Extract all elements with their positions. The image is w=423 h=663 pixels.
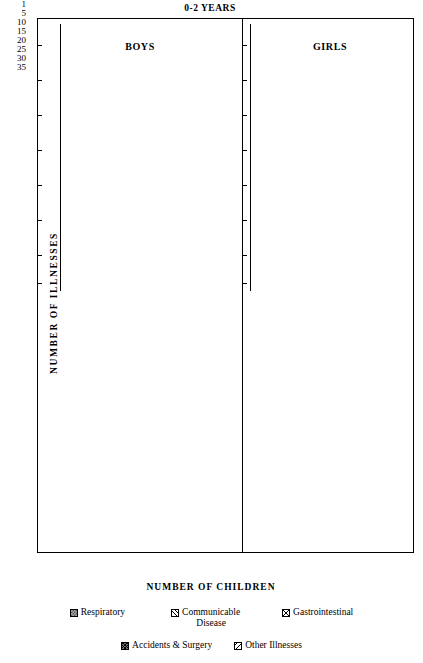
y-tick-respiratory-35-boys bbox=[38, 45, 42, 46]
chart-title: 0-2 YEARS bbox=[120, 3, 300, 13]
communicable-swatch-icon bbox=[171, 609, 179, 617]
chart-frame-top bbox=[37, 18, 414, 19]
chart-frame-left bbox=[37, 18, 38, 552]
y-tick-respiratory-10-girls bbox=[243, 220, 247, 221]
y-tick-respiratory-1-boys bbox=[38, 283, 42, 284]
other-swatch-icon bbox=[234, 642, 242, 650]
chart-frame-bottom bbox=[37, 552, 414, 553]
panel-axis-respiratory-girls bbox=[250, 24, 251, 291]
panel-header-boys: BOYS bbox=[100, 41, 180, 52]
legend-label: Respiratory bbox=[81, 607, 125, 618]
legend-item-respiratory: Respiratory bbox=[70, 607, 125, 618]
accidents-swatch-icon bbox=[121, 642, 129, 650]
legend-item-accidents: Accidents & Surgery bbox=[121, 640, 212, 651]
y-tick-respiratory-5-boys bbox=[38, 255, 42, 256]
y-tick-respiratory-5-girls bbox=[243, 255, 247, 256]
legend-label: CommunicableDisease bbox=[182, 607, 240, 629]
legend-item-communicable: CommunicableDisease bbox=[171, 607, 240, 629]
y-tick-respiratory-1-girls bbox=[243, 283, 247, 284]
y-tick-respiratory-30-girls bbox=[243, 80, 247, 81]
gastrointestinal-swatch-icon bbox=[282, 609, 290, 617]
panel-header-girls: GIRLS bbox=[290, 41, 370, 52]
legend-label: Accidents & Surgery bbox=[132, 640, 212, 651]
y-tick-respiratory-10-boys bbox=[38, 220, 42, 221]
legend-item-other: Other Illnesses bbox=[234, 640, 302, 651]
chart-frame-right bbox=[413, 18, 414, 552]
y-axis-title: NUMBER OF ILLNESSES bbox=[49, 203, 59, 403]
y-tick-respiratory-25-girls bbox=[243, 115, 247, 116]
y-tick-respiratory-35-girls bbox=[243, 45, 247, 46]
chart-root: 0-2 YEARS NUMBER OF ILLNESSES NUMBER OF … bbox=[0, 0, 423, 663]
y-tick-respiratory-30-boys bbox=[38, 80, 42, 81]
legend-row-2: Accidents & Surgery Other Illnesses bbox=[0, 640, 423, 651]
y-tick-respiratory-25-boys bbox=[38, 115, 42, 116]
panel-divider bbox=[242, 18, 243, 552]
respiratory-swatch-icon bbox=[70, 609, 78, 617]
y-tick-label-respiratory-35: 35 bbox=[0, 63, 26, 72]
y-tick-respiratory-15-boys bbox=[38, 185, 42, 186]
legend-row-1: Respiratory CommunicableDisease Gastroin… bbox=[0, 607, 423, 629]
y-tick-respiratory-15-girls bbox=[243, 185, 247, 186]
panel-axis-respiratory-boys bbox=[60, 24, 61, 291]
y-tick-respiratory-20-girls bbox=[243, 150, 247, 151]
legend-label: Other Illnesses bbox=[245, 640, 302, 651]
legend-item-gastrointestinal: Gastrointestinal bbox=[282, 607, 353, 618]
x-axis-title: NUMBER OF CHILDREN bbox=[61, 582, 361, 592]
y-tick-respiratory-20-boys bbox=[38, 150, 42, 151]
legend-label: Gastrointestinal bbox=[293, 607, 353, 618]
